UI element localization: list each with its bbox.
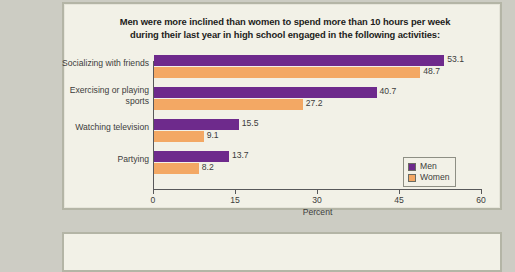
bar-value-women: 27.2 [303, 98, 323, 108]
category-group: Socializing with friends 53.1 48.7 [65, 55, 501, 81]
legend-swatch-men-icon [408, 163, 416, 171]
chart-legend: Men Women [403, 157, 456, 187]
category-group: Watching television 15.5 9.1 [65, 119, 501, 145]
x-axis-tick [481, 190, 482, 194]
x-axis-tick-label: 30 [312, 195, 322, 205]
legend-item-men: Men [408, 161, 449, 172]
x-axis-tick-label: 15 [230, 195, 240, 205]
next-chart-panel-cropped [62, 232, 502, 272]
legend-label-men: Men [420, 161, 437, 172]
bar-value-women: 9.1 [204, 130, 219, 140]
chart-title-line-1: Men were more inclined than women to spe… [73, 15, 497, 28]
bar-men [154, 151, 229, 162]
chart-title: Men were more inclined than women to spe… [73, 15, 497, 41]
x-axis-tick [153, 190, 154, 194]
x-axis-tick-label: 45 [394, 195, 404, 205]
bar-value-men: 13.7 [229, 150, 249, 160]
bar-men [154, 87, 377, 98]
legend-item-women: Women [408, 172, 449, 183]
bar-women [154, 67, 420, 78]
bar-value-men: 15.5 [239, 118, 259, 128]
x-axis-tick [317, 190, 318, 194]
category-label-line: Socializing with friends [0, 58, 149, 69]
bar-men [154, 119, 239, 130]
chart-title-line-2: during their last year in high school en… [73, 28, 497, 41]
chart-panel-inner: Men were more inclined than women to spe… [64, 4, 500, 208]
bar-value-women: 48.7 [420, 66, 440, 76]
category-group: Exercising or playing sports 40.7 27.2 [65, 87, 501, 113]
category-label: Partying [0, 154, 149, 165]
category-label: Socializing with friends [0, 58, 149, 69]
bar-women [154, 163, 199, 174]
legend-label-women: Women [420, 172, 449, 183]
bar-value-men: 40.7 [377, 86, 397, 96]
x-axis-tick-label: 0 [151, 195, 156, 205]
bar-men [154, 55, 444, 66]
category-label-line: sports [0, 96, 149, 107]
legend-swatch-women-icon [408, 174, 416, 182]
plot-wrapper: Socializing with friends 53.1 48.7 Exerc… [65, 55, 501, 211]
x-axis-tick [235, 190, 236, 194]
x-axis-tick-label: 60 [476, 195, 486, 205]
bar-women [154, 99, 303, 110]
x-axis-tick [399, 190, 400, 194]
category-label-line: Exercising or playing [0, 85, 149, 96]
bar-value-men: 53.1 [444, 54, 464, 64]
x-axis-title: Percent [153, 207, 482, 217]
category-label: Watching television [0, 122, 149, 133]
chart-panel: Men were more inclined than women to spe… [62, 2, 502, 210]
bar-value-women: 8.2 [199, 162, 214, 172]
category-label-line: Partying [0, 154, 149, 165]
category-label: Exercising or playing sports [0, 85, 149, 106]
category-label-line: Watching television [0, 122, 149, 133]
bar-women [154, 131, 204, 142]
